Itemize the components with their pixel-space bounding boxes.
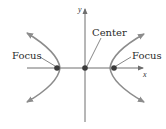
right-focus-leader <box>116 57 131 66</box>
right-focus-point <box>111 65 117 71</box>
center-point <box>82 65 88 71</box>
left-branch-lower <box>27 68 60 102</box>
left-focus-label: Focus <box>12 50 42 61</box>
hyperbola-diagram: x y Focus Center Focus <box>0 0 166 129</box>
center-leader <box>87 38 101 66</box>
left-focus-point <box>54 65 60 71</box>
y-axis-label: y <box>77 5 82 14</box>
right-branch-lower <box>110 68 144 102</box>
center-label: Center <box>92 27 127 38</box>
x-axis-label: x <box>142 70 147 79</box>
left-focus-leader <box>40 57 55 66</box>
right-focus-label: Focus <box>132 50 162 61</box>
